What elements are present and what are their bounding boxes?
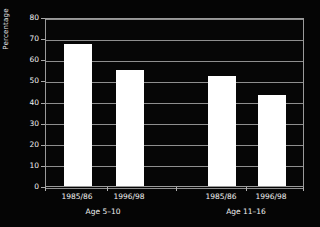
y-tick-mark xyxy=(41,39,45,40)
y-axis-title: Percentage xyxy=(2,0,16,74)
gridline xyxy=(46,188,303,189)
x-tick-mark xyxy=(45,187,46,191)
x-tick-label: 1996/98 xyxy=(99,192,159,201)
y-tick-label: 60 xyxy=(17,56,39,64)
y-tick-label: 10 xyxy=(17,162,39,170)
y-tick-mark xyxy=(41,18,45,19)
bar xyxy=(208,76,236,186)
group-label: Age 5–10 xyxy=(63,207,143,216)
gridline xyxy=(46,40,303,41)
y-tick-label: 70 xyxy=(17,35,39,43)
y-tick-label: 30 xyxy=(17,120,39,128)
group-label: Age 11–16 xyxy=(206,207,286,216)
gridline xyxy=(46,19,303,20)
y-tick-mark xyxy=(41,145,45,146)
bar-chart: Percentage 80706050403020100 1985/861996… xyxy=(0,0,320,227)
y-tick-label: 50 xyxy=(17,77,39,85)
x-tick-mark xyxy=(176,187,177,191)
y-tick-label: 0 xyxy=(17,183,39,191)
bar xyxy=(258,95,286,186)
x-tick-mark xyxy=(107,187,108,191)
y-tick-mark xyxy=(41,103,45,104)
y-tick-mark xyxy=(41,60,45,61)
y-tick-label: 20 xyxy=(17,141,39,149)
x-tick-label: 1985/86 xyxy=(47,192,107,201)
y-tick-mark xyxy=(41,81,45,82)
x-tick-mark xyxy=(303,187,304,191)
y-tick-mark xyxy=(41,124,45,125)
x-tick-mark xyxy=(246,187,247,191)
y-tick-label: 80 xyxy=(17,14,39,22)
y-tick-label: 40 xyxy=(17,99,39,107)
bar xyxy=(116,70,144,186)
y-tick-mark xyxy=(41,166,45,167)
x-tick-label: 1996/98 xyxy=(241,192,301,201)
bar xyxy=(64,44,92,186)
plot-area xyxy=(45,18,304,187)
